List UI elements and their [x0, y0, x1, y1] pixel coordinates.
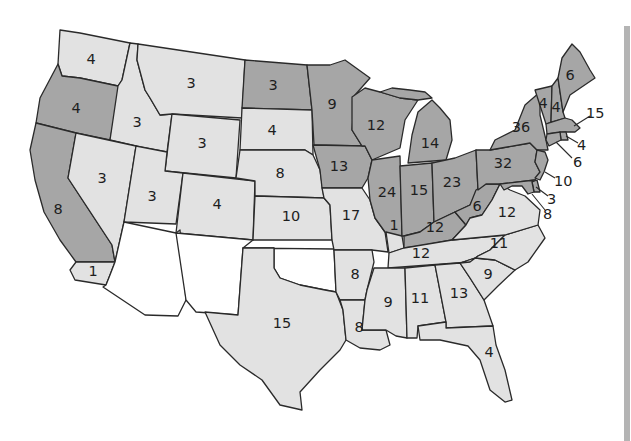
page-edge-bar: [624, 26, 630, 441]
label-ky: 12: [426, 219, 444, 235]
label-ne: 8: [275, 165, 284, 181]
label-nh: 4: [551, 99, 560, 115]
label-sc: 9: [483, 266, 492, 282]
label-id: 3: [132, 114, 141, 130]
label-va: 12: [498, 204, 516, 220]
label-wa: 4: [86, 51, 95, 67]
label-wy: 3: [197, 135, 206, 151]
label-la: 8: [354, 319, 363, 335]
leader-ct: [556, 142, 572, 158]
label-ms: 9: [383, 294, 392, 310]
label-co: 4: [212, 196, 221, 212]
label-ny: 36: [512, 119, 530, 135]
label-sd: 4: [267, 122, 276, 138]
label-nd: 3: [268, 77, 277, 93]
label-ut: 3: [147, 188, 156, 204]
label-ct: 6: [573, 154, 582, 170]
label-al: 11: [411, 290, 429, 306]
label-ma: 15: [586, 105, 604, 121]
label-wv: 6: [472, 198, 481, 214]
label-ks: 10: [282, 208, 300, 224]
label-ky-split: 1: [389, 217, 398, 233]
state-florida[interactable]: [418, 322, 512, 402]
label-ga: 13: [450, 285, 468, 301]
label-nj: 10: [554, 173, 572, 189]
label-vt: 4: [538, 95, 547, 111]
label-ar: 8: [350, 266, 359, 282]
label-in: 15: [410, 182, 428, 198]
label-ca-south: 1: [88, 263, 97, 279]
state-connecticut[interactable]: [546, 132, 561, 146]
label-il: 24: [378, 184, 396, 200]
state-michigan[interactable]: [408, 100, 452, 163]
label-nc: 11: [490, 235, 508, 251]
label-ca: 8: [53, 201, 62, 217]
state-new-jersey[interactable]: [535, 150, 548, 180]
label-tn: 12: [412, 245, 430, 261]
label-mt: 3: [186, 75, 195, 91]
label-mn: 9: [327, 96, 336, 112]
label-md: 8: [543, 206, 552, 222]
label-nv: 3: [97, 170, 106, 186]
label-tx: 15: [273, 315, 291, 331]
label-mi: 14: [421, 135, 439, 151]
label-me: 6: [565, 67, 574, 83]
label-oh: 23: [443, 174, 461, 190]
label-fl: 4: [484, 344, 493, 360]
label-mo: 17: [342, 207, 360, 223]
label-pa: 32: [494, 155, 512, 171]
label-or: 4: [71, 100, 80, 116]
label-ri: 4: [577, 137, 586, 153]
label-wi: 12: [367, 117, 385, 133]
electoral-map: 4 4 8 1 3 3 3 3 3 4 3 4 8 10 15 9 13 17 …: [0, 0, 631, 441]
label-de: 3: [547, 191, 556, 207]
label-ia: 13: [330, 158, 348, 174]
state-maine[interactable]: [558, 44, 595, 112]
